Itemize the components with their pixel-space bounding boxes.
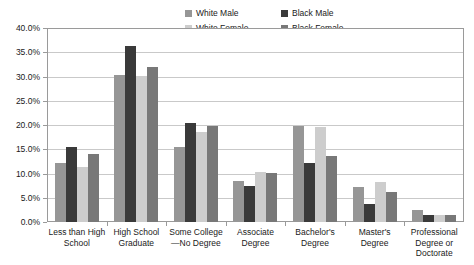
x-axis-label-line: Degree [226,238,286,249]
legend-label: Black Male [292,9,334,18]
x-axis-category-label: Less than HighSchool [47,227,107,248]
x-axis-tick-mark [166,222,167,226]
bar [66,147,77,222]
x-axis-label-line: Doctorate [404,248,464,259]
x-axis-category-label: Bachelor'sDegree [285,227,345,248]
bar [136,76,147,222]
x-axis-label-line: Master's [345,227,405,238]
x-axis-label-line: Associate [226,227,286,238]
bar-group [47,28,107,222]
y-axis: 40.0%35.0%30.0%25.0%20.0%15.0%10.0%5.0%0… [0,28,47,222]
bar [88,154,99,222]
y-axis-tick-label: 40.0% [16,24,40,33]
y-axis-tick-label: 0.0% [21,218,40,227]
bar-group [345,28,405,222]
legend-item: Black Male [281,9,385,18]
bar [326,156,337,222]
x-axis-tick-mark [107,222,108,226]
bar [196,132,207,222]
x-axis-tick-mark [285,222,286,226]
bar [304,163,315,222]
x-axis-label-line: Some College [166,227,226,238]
bar [185,123,196,222]
x-axis: Less than HighSchoolHigh SchoolGraduateS… [47,222,464,265]
bar [114,75,125,222]
x-axis-category-label: Master'sDegree [345,227,405,248]
x-axis-label-line: —No Degree [166,238,226,249]
bar-group [107,28,167,222]
bar [375,182,386,222]
bar [353,187,364,222]
bars-layer [47,28,464,222]
y-axis-tick-label: 20.0% [16,121,40,130]
x-axis-tick-mark [226,222,227,226]
bar [55,163,66,222]
bar-chart: White MaleBlack MaleWhite FemaleBlack Fe… [0,0,474,265]
y-axis-tick-label: 25.0% [16,96,40,105]
y-axis-tick-label: 30.0% [16,72,40,81]
y-axis-tick-label: 5.0% [21,193,40,202]
bar [233,181,244,222]
bar [412,210,423,222]
bar [125,46,136,222]
bar [423,215,434,222]
x-axis-label-line: Professional [404,227,464,238]
legend-swatch-icon [281,10,288,17]
legend-swatch-icon [185,10,192,17]
y-axis-tick-label: 15.0% [16,145,40,154]
x-axis-label-line: School [47,238,107,249]
bar [207,126,218,222]
x-axis-label-line: Bachelor's [285,227,345,238]
legend-item: White Male [185,9,281,18]
bar-group [226,28,286,222]
bar [244,186,255,222]
legend-label: White Male [196,9,239,18]
x-axis-category-label: ProfessionalDegree orDoctorate [404,227,464,259]
bar [174,147,185,222]
x-axis-label-line: Degree or [404,238,464,249]
bar [445,215,456,222]
x-axis-category-label: High SchoolGraduate [107,227,167,248]
bar [77,167,88,222]
bar [434,215,445,222]
bar [147,67,158,222]
x-axis-label-line: Less than High [47,227,107,238]
y-axis-tick-label: 35.0% [16,48,40,57]
x-axis-label-line: Degree [285,238,345,249]
bar [364,204,375,222]
bar-group [166,28,226,222]
x-axis-category-label: AssociateDegree [226,227,286,248]
bar [255,172,266,222]
x-axis-category-label: Some College—No Degree [166,227,226,248]
x-axis-tick-mark [404,222,405,226]
x-axis-label-line: Graduate [107,238,167,249]
y-axis-tick-label: 10.0% [16,169,40,178]
x-axis-label-line: Degree [345,238,405,249]
x-axis-tick-mark [345,222,346,226]
bar-group [285,28,345,222]
bar [266,173,277,222]
bar [315,127,326,222]
bar [293,126,304,222]
bar-group [404,28,464,222]
bar [386,192,397,222]
x-axis-label-line: High School [107,227,167,238]
